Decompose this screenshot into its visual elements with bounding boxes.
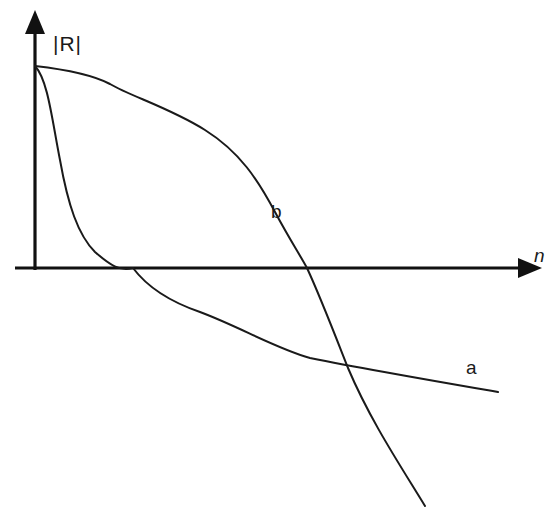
- curve-b: [35, 66, 425, 506]
- curve-a-label: a: [466, 358, 477, 377]
- line-diagram: [0, 0, 559, 520]
- y-axis-arrow-icon: [25, 10, 45, 34]
- curve-b-label: b: [271, 202, 282, 221]
- curve-a: [35, 66, 498, 392]
- x-axis-label: n: [534, 246, 545, 265]
- y-axis-label: |R|: [53, 33, 82, 54]
